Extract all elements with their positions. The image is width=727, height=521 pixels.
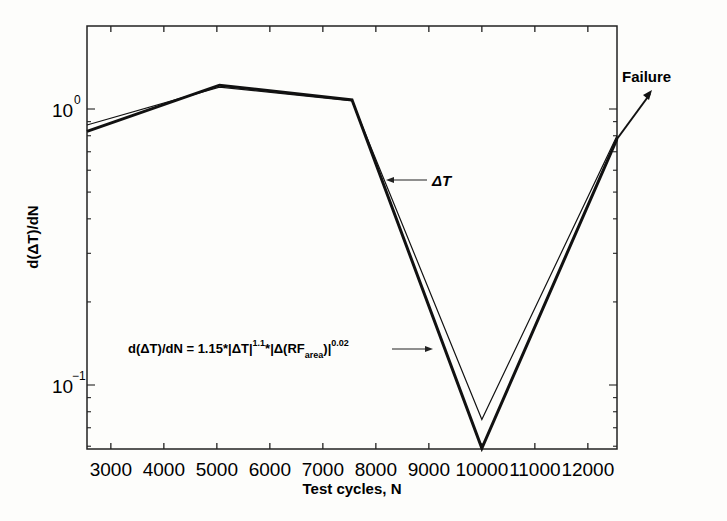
plot-frame <box>87 26 617 449</box>
svg-text:−1: −1 <box>72 369 86 383</box>
svg-text:3000: 3000 <box>90 459 132 480</box>
svg-text:12000: 12000 <box>561 459 614 480</box>
chart: 10 0 10 −1 30004000500060007000800090001… <box>0 0 727 521</box>
series-line-0 <box>87 85 617 448</box>
svg-text:10: 10 <box>52 100 73 121</box>
series-line-1 <box>87 87 617 419</box>
failure-arrow-icon <box>617 94 650 139</box>
svg-text:8000: 8000 <box>355 459 397 480</box>
svg-text:10: 10 <box>52 376 73 397</box>
y-tick-10-0: 10 0 <box>52 93 81 121</box>
svg-text:0: 0 <box>74 93 81 107</box>
y-tick-10-minus1: 10 −1 <box>52 369 86 397</box>
x-tick-labels: 3000400050006000700080009000100001100012… <box>90 459 615 480</box>
y-axis-label: d(ΔT)/dN <box>24 205 41 268</box>
failure-label: Failure <box>622 68 671 85</box>
svg-text:10000: 10000 <box>455 459 508 480</box>
delta-t-arrowhead-icon <box>386 177 394 183</box>
x-axis-label: Test cycles, N <box>303 480 402 497</box>
formula-label: d(ΔT)/dN = 1.15*|ΔT|1.1*|Δ(RFarea)|0.02 <box>128 338 349 360</box>
series-group <box>87 85 617 448</box>
svg-text:d(ΔT)/dN = 1.15*|ΔT|1.1*|Δ(RFa: d(ΔT)/dN = 1.15*|ΔT|1.1*|Δ(RFarea)|0.02 <box>128 338 349 360</box>
svg-text:6000: 6000 <box>249 459 291 480</box>
svg-text:11000: 11000 <box>509 459 560 480</box>
formula-arrowhead-icon <box>425 346 433 352</box>
failure-arrowhead-icon <box>643 90 652 100</box>
x-axis-ticks <box>111 26 588 449</box>
y-axis-ticks <box>87 109 617 446</box>
svg-text:4000: 4000 <box>143 459 185 480</box>
svg-text:5000: 5000 <box>196 459 238 480</box>
svg-text:9000: 9000 <box>408 459 450 480</box>
delta-t-label: ΔT <box>431 172 453 189</box>
svg-text:7000: 7000 <box>302 459 344 480</box>
